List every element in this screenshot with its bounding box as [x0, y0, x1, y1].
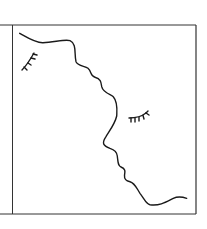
profile-contour-line	[20, 33, 187, 205]
illustration-canvas: Line drawing of two face profiles sharin…	[0, 0, 207, 229]
left-closed-eye-icon	[22, 53, 37, 70]
face-profiles-drawing	[0, 0, 207, 229]
right-closed-eye-icon	[129, 111, 149, 122]
